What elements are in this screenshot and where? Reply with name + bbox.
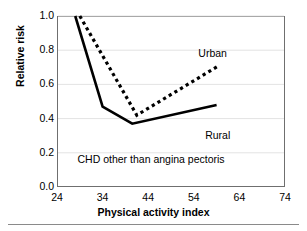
x-axis-ticks: 243444546474 [0,0,307,231]
condition-note: CHD other than angina pectoris [78,153,225,165]
series-label-urban: Urban [198,47,227,59]
x-tick-label: 54 [181,192,207,203]
figure-bottom-rule [8,224,299,225]
x-tick-label: 24 [44,192,70,203]
x-tick-label: 74 [272,192,298,203]
x-tick-label: 64 [226,192,252,203]
x-axis-title: Physical activity index [0,206,307,218]
x-tick-label: 44 [135,192,161,203]
series-label-rural: Rural [205,129,230,141]
chart-figure: Relative risk 0.00.20.40.60.81.0 2434445… [0,0,307,231]
x-tick-label: 34 [90,192,116,203]
